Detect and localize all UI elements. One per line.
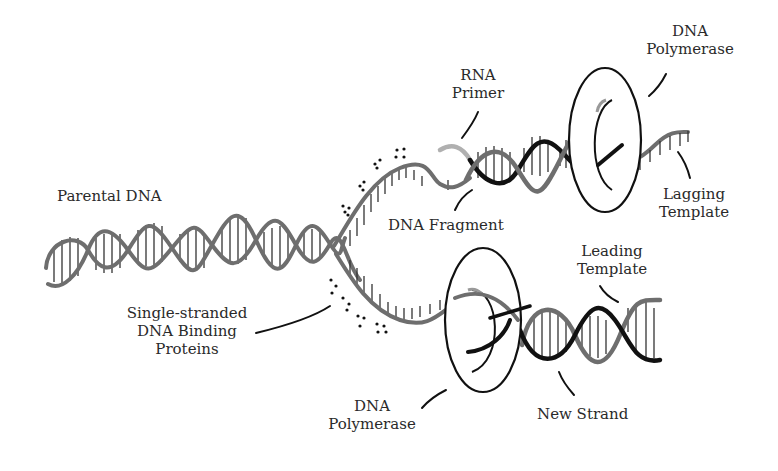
label-leading-template: Leading Template	[570, 242, 654, 278]
dna-polymerase-bottom	[445, 248, 530, 392]
leader-leading-template	[600, 286, 618, 302]
leader-polymerase-bottom	[422, 390, 446, 408]
label-ssb-proteins: Single-stranded DNA Binding Proteins	[113, 304, 261, 358]
leader-lagging-template	[678, 152, 690, 178]
parental-dna-helix	[46, 214, 360, 286]
leader-rna-primer	[462, 112, 478, 138]
label-lagging-template: Lagging Template	[652, 185, 736, 221]
leader-dna-fragment	[455, 190, 472, 210]
dna-replication-diagram: Parental DNA Single-stranded DNA Binding…	[0, 0, 778, 471]
leader-polymerase-top	[649, 74, 666, 96]
label-dna-polymerase-top: DNA Polymerase	[640, 22, 740, 58]
label-parental-dna: Parental DNA	[57, 187, 162, 205]
label-dna-polymerase-bottom: DNA Polymerase	[322, 397, 422, 433]
dna-polymerase-top	[569, 68, 641, 212]
label-new-strand: New Strand	[537, 405, 628, 423]
rna-primer-segment	[440, 146, 470, 160]
label-rna-primer: RNA Primer	[448, 66, 508, 102]
leader-ssb	[256, 306, 330, 333]
leader-new-strand	[559, 372, 574, 395]
label-dna-fragment: DNA Fragment	[388, 216, 504, 234]
